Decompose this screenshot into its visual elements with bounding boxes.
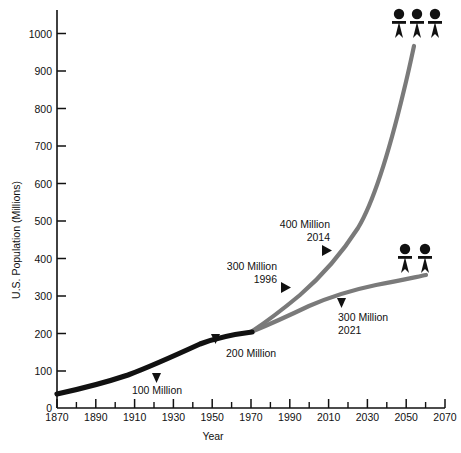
y-tick-label-400: 400 [34,253,52,265]
annotation-300-million-2021-label-line1: 300 Million [338,311,388,323]
x-tick-label-2050: 2050 [395,411,419,423]
annotation-400-million-2014: 400 Million 2014 [280,218,332,256]
annotation-100-million-label: 100 Million [132,384,182,396]
down-triangle-marker-icon [152,373,161,383]
annotation-100-million: 100 Million [132,373,182,396]
annotation-400-million-2014-label-line1: 400 Million [280,218,330,230]
y-axis-title: U.S. Population (Millions) [10,181,22,299]
x-tick-label-1990: 1990 [278,411,302,423]
x-tick-label-1870: 1870 [45,411,69,423]
chart-canvas: 1000 900 800 700 600 500 400 300 200 100… [0,0,461,453]
series-line-high-projection [251,46,414,332]
person-figure-icon [418,244,432,273]
y-axis-tick-labels: 1000 900 800 700 600 500 400 300 200 100… [29,28,53,415]
x-tick-label-1970: 1970 [239,411,263,423]
y-tick-label-700: 700 [34,140,52,152]
x-tick-label-2070: 2070 [433,411,457,423]
person-figure-icon [428,9,442,38]
x-axis-title: Year [202,430,224,442]
annotation-300-million-1996-label-line2: 1996 [254,273,278,285]
x-tick-label-2030: 2030 [356,411,380,423]
high-projection-people-icons [392,9,442,38]
x-tick-label-1890: 1890 [84,411,108,423]
down-triangle-marker-icon [337,298,346,308]
x-tick-label-1950: 1950 [201,411,225,423]
annotation-300-million-1996: 300 Million 1996 [227,260,291,293]
annotation-200-million-label: 200 Million [226,347,276,359]
y-tick-label-200: 200 [34,328,52,340]
x-tick-label-1910: 1910 [123,411,147,423]
y-tick-label-600: 600 [34,178,52,190]
annotation-300-million-1996-label-line1: 300 Million [227,260,277,272]
y-tick-label-500: 500 [34,215,52,227]
annotation-400-million-2014-label-line2: 2014 [307,231,331,243]
y-tick-label-100: 100 [34,365,52,377]
person-figure-icon [392,9,406,38]
low-projection-people-icons [398,244,432,273]
x-tick-label-1930: 1930 [162,411,186,423]
person-figure-icon [410,9,424,38]
right-triangle-marker-icon [322,245,332,256]
population-projection-chart: 1000 900 800 700 600 500 400 300 200 100… [0,0,461,453]
y-tick-label-800: 800 [34,103,52,115]
annotation-300-million-2021-label-line2: 2021 [338,324,362,336]
y-axis-ticks [57,34,66,372]
person-figure-icon [398,244,412,273]
y-tick-label-300: 300 [34,290,52,302]
annotation-300-million-2021: 300 Million 2021 [337,298,388,336]
x-tick-label-2010: 2010 [317,411,341,423]
right-triangle-marker-icon [281,282,291,293]
y-tick-label-1000: 1000 [29,28,53,40]
y-tick-label-900: 900 [34,65,52,77]
x-axis-tick-labels: 1870 1890 1910 1930 1950 1970 1990 2010 … [45,411,457,423]
